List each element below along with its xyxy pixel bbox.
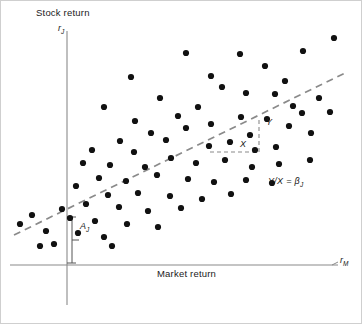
scatter-point [132,118,138,124]
scatter-point [123,178,129,184]
slope-beta-annotation-text: Y/X = β [268,176,300,186]
scatter-point [249,164,255,170]
scatter-point [80,160,86,166]
scatter-point [193,160,199,166]
scatter-point [199,196,205,202]
scatter-point [109,243,115,249]
scatter-point [17,221,23,227]
scatter-point [195,104,201,110]
scatter-point [327,109,333,115]
y-axis-title: Stock return [36,8,90,18]
scatter-point [155,224,161,230]
scatter-point [96,175,102,181]
scatter-point [178,205,184,211]
scatter-point [148,130,154,136]
intercept-alpha-label: AJ [80,222,89,233]
scatter-point [117,138,123,144]
scatter-point [73,183,79,189]
scatter-point [211,179,217,185]
scatter-point [219,84,225,90]
scatter-point [175,113,181,119]
scatter-point [227,139,233,145]
scatter-point [272,91,278,97]
scatter-point [101,234,107,240]
scatter-point [262,63,268,69]
slope-beta-annotation-subscript: J [300,181,304,188]
y-axis-symbol: rJ [58,24,64,35]
scatter-point [299,110,305,116]
x-axis-title: Market return [157,269,216,279]
scatter-point [243,177,249,183]
scatter-point [185,176,191,182]
slope-beta-annotation: Y/X = βJ [268,177,304,188]
scatter-point [101,104,107,110]
scatter-point [228,191,234,197]
scatter-point-group [17,35,337,249]
scatter-point [247,132,253,138]
scatter-point [308,130,314,136]
scatter-point [157,95,163,101]
x-axis-symbol: rM [340,256,348,267]
scatter-point [208,73,214,79]
scatter-point [37,243,43,249]
scatter-point [89,147,95,153]
scatter-point [92,218,98,224]
scatter-point [290,103,296,109]
scatter-point [276,161,282,167]
scatter-point [43,228,49,234]
scatter-point [135,190,141,196]
scatter-point [105,192,111,198]
scatter-point [145,208,151,214]
scatter-point [83,201,89,207]
scatter-point [252,147,258,153]
scatter-point [124,221,130,227]
scatter-plot-figure: Stock return rJ Market return rM Y/X = β… [0,0,362,324]
scatter-point [300,48,306,54]
scatter-point [316,95,322,101]
scatter-point [331,35,337,41]
scatter-point [286,123,292,129]
intercept-alpha-subscript: J [86,226,89,233]
slope-rise-label: Y [266,118,272,127]
slope-run-label: X [240,140,246,149]
scatter-point [142,164,148,170]
scatter-point [168,155,174,161]
scatter-point [183,125,189,131]
scatter-point [67,215,73,221]
scatter-point [51,241,57,247]
scatter-point [243,90,249,96]
scatter-point [163,137,169,143]
scatter-point [29,212,35,218]
scatter-point [167,193,173,199]
scatter-point [307,157,313,163]
scatter-point [107,162,113,168]
scatter-point [154,172,160,178]
scatter-point [183,50,189,56]
scatter-point [59,206,65,212]
y-axis-symbol-subscript: J [61,28,64,35]
x-axis-symbol-subscript: M [343,260,348,267]
scatter-point [282,78,288,84]
scatter-point [237,51,243,57]
scatter-point [128,74,134,80]
scatter-point [206,143,212,149]
scatter-point [131,149,137,155]
scatter-point [273,144,279,150]
scatter-point [238,114,244,120]
scatter-point [116,204,122,210]
scatter-point [208,121,214,127]
scatter-point [222,157,228,163]
